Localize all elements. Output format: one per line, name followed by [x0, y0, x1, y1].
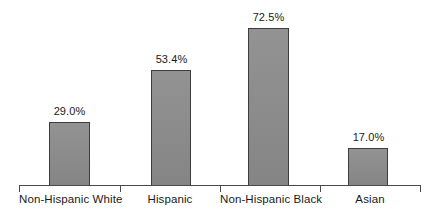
x-axis-label-asian: Asian	[320, 193, 420, 205]
bar-chart: 29.0% 53.4% 72.5% 17.0% Non-Hispanic Whi…	[0, 0, 433, 213]
bar-non-hispanic-black	[248, 28, 289, 186]
plot-area: 29.0% 53.4% 72.5% 17.0% Non-Hispanic Whi…	[0, 0, 433, 213]
x-axis-tick	[220, 186, 221, 192]
value-label-non-hispanic-white: 29.0%	[34, 105, 105, 117]
x-axis-label-non-hispanic-white: Non-Hispanic White	[19, 193, 120, 205]
value-label-asian: 17.0%	[333, 131, 404, 143]
x-axis-label-non-hispanic-black: Non-Hispanic Black	[220, 193, 320, 205]
value-label-hispanic: 53.4%	[136, 53, 207, 65]
value-label-non-hispanic-black: 72.5%	[233, 11, 304, 23]
x-axis-tick	[320, 186, 321, 192]
x-axis-tick	[19, 186, 20, 192]
bar-hispanic	[151, 70, 191, 186]
bar-asian	[348, 148, 388, 186]
x-axis-label-hispanic: Hispanic	[120, 193, 220, 205]
x-axis-tick	[420, 186, 421, 192]
x-axis-tick	[120, 186, 121, 192]
bar-non-hispanic-white	[49, 122, 90, 186]
